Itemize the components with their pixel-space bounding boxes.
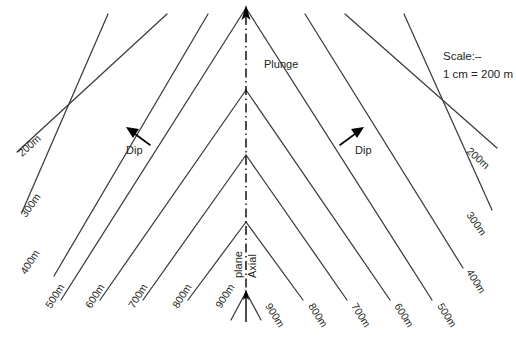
contour-line-left-700m <box>143 155 246 300</box>
contour-labels-right: 900m 800m 700m 600m 500m 400m 300m 200m <box>263 145 492 330</box>
dip-label-right: Dip <box>355 144 372 156</box>
contour-line-left-900m <box>231 292 246 320</box>
scale-value: 1 cm = 200 m <box>443 68 513 80</box>
contour-label-right-900m: 900m <box>263 301 287 330</box>
contour-line-right-400m <box>305 14 463 268</box>
fold-map-diagram: 200m 300m 400m 500m 600m 700m 800m 900m … <box>0 0 516 342</box>
scale-block: Scale:– 1 cm = 200 m <box>443 50 513 80</box>
structure-contour-svg: 200m 300m 400m 500m 600m 700m 800m 900m … <box>0 0 516 342</box>
contour-labels-left: 200m 300m 400m 500m 600m 700m 800m 900m <box>15 132 236 310</box>
contour-label-right-500m: 500m <box>435 301 459 330</box>
contour-line-right-200m <box>345 14 497 148</box>
contour-label-left-800m: 800m <box>170 281 194 310</box>
dip-arrow-left <box>126 127 150 145</box>
contour-label-right-600m: 600m <box>392 301 416 330</box>
contour-label-left-400m: 400m <box>18 247 42 276</box>
contour-line-left-600m <box>100 90 246 300</box>
contour-line-right-700m <box>246 155 347 300</box>
contour-label-right-400m: 400m <box>464 267 488 296</box>
contour-line-left-300m <box>22 14 108 212</box>
axial-plane-label-line2: plane <box>232 251 244 278</box>
contour-line-right-900m <box>246 292 261 320</box>
contour-label-right-300m: 300m <box>464 209 489 238</box>
contour-label-left-900m: 900m <box>213 281 237 310</box>
contour-label-right-700m: 700m <box>349 301 373 330</box>
plunge-label: Plunge <box>264 58 298 70</box>
contour-label-right-800m: 800m <box>306 301 330 330</box>
contour-line-right-500m <box>246 8 432 300</box>
contour-line-left-500m <box>61 8 246 300</box>
contour-label-left-300m: 300m <box>18 191 43 220</box>
scale-caption: Scale:– <box>443 50 482 62</box>
dip-arrow-right <box>340 127 364 145</box>
contour-line-right-300m <box>404 14 492 210</box>
dip-label-left: Dip <box>126 144 143 156</box>
axial-plane-label: Axial plane <box>232 251 258 278</box>
contour-line-left-200m <box>17 14 167 152</box>
contour-label-left-200m: 200m <box>15 132 43 159</box>
axial-plane-label-line1: Axial <box>246 254 258 278</box>
left-limb-contours <box>17 8 246 320</box>
